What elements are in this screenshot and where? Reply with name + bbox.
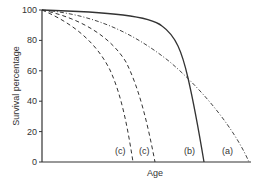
curve-a [42,10,249,162]
label-c-1: (c) [115,146,126,156]
curve-c-2 [42,10,155,162]
y-axis-title: Survival percentage [11,46,21,126]
survival-chart: 0 20 40 60 80 100 Survival percentage Ag… [0,0,265,186]
y-tick-20: 20 [27,127,37,137]
y-tick-0: 0 [32,157,37,167]
y-tick-labels: 0 20 40 60 80 100 [22,5,37,167]
y-tick-100: 100 [22,5,37,15]
curve-c-1 [42,10,133,162]
y-tick-60: 60 [27,66,37,76]
label-a: (a) [222,146,233,156]
x-axis-title: Age [147,168,163,178]
curve-b [42,10,204,162]
y-tick-80: 80 [27,35,37,45]
label-c-2: (c) [139,146,150,156]
label-b: (b) [184,146,195,156]
y-tick-40: 40 [27,96,37,106]
